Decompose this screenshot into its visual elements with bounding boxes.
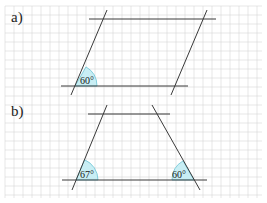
angle-label-a: 60° — [80, 75, 94, 86]
part-a-label: a) — [11, 9, 23, 26]
right-side-a — [171, 10, 207, 95]
geometry-figure: 60° 67° 60° a) b) — [0, 0, 267, 203]
grid-paper — [5, 6, 262, 198]
figure-svg: 60° 67° 60° — [0, 0, 267, 203]
part-b-label: b) — [11, 103, 24, 120]
part-a-parallelogram: 60° — [61, 10, 216, 95]
angle-label-b-left: 67° — [80, 169, 94, 180]
angle-label-b-right: 60° — [172, 169, 186, 180]
